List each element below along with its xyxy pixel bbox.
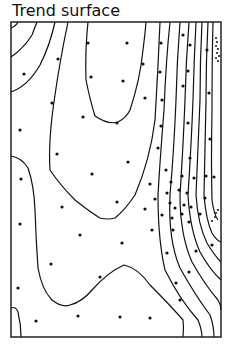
contour-lines: [11, 22, 221, 337]
contour-plot: [0, 0, 232, 351]
